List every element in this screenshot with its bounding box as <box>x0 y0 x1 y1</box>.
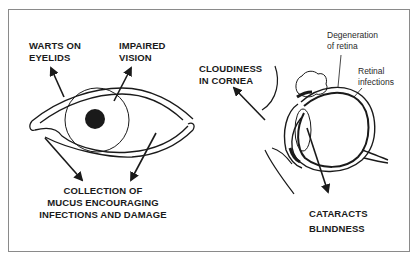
label-mucus-collection: COLLECTION OF MUCUS ENCOURAGING INFECTIO… <box>38 185 168 221</box>
label-warts-on-eyelids: WARTS ON EYELIDS <box>29 40 81 64</box>
label-impaired-vision: IMPAIRED VISION <box>119 40 166 64</box>
label-degeneration-of-retina: Degeneration of retina <box>327 30 378 52</box>
arrow-warts <box>51 68 64 97</box>
label-cloudiness-in-cornea: CLOUDINESS IN CORNEA <box>199 63 262 87</box>
label-cataracts-blindness: CATARACTS BLINDNESS <box>309 206 368 236</box>
label-retinal-infections: Retinal infections <box>358 66 394 88</box>
pupil <box>85 109 105 129</box>
arrow-cloudiness <box>234 88 265 120</box>
external-eye-drawing <box>30 88 194 157</box>
arrow-cataracts <box>307 128 328 192</box>
arrow-impaired-vision <box>114 68 131 101</box>
